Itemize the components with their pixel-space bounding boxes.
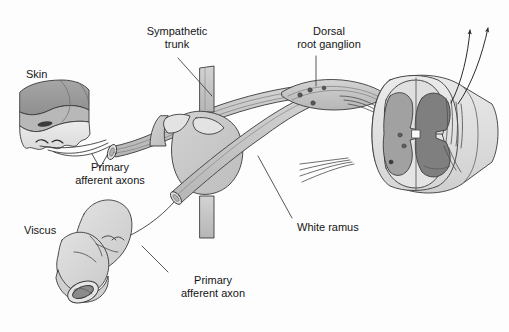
viscus-tube (56, 200, 132, 307)
leader-primary-afferent-axon (142, 246, 168, 272)
label-primary-afferent-axons: Primary afferent axons (60, 161, 160, 187)
label-viscus: Viscus (24, 224, 56, 237)
ventral-root-fibers (300, 158, 354, 182)
anatomical-figure: Skin Sympathetic trunk Dorsal root gangl… (0, 0, 509, 332)
skin-block (20, 80, 90, 149)
spinal-cord (372, 75, 498, 193)
label-primary-afferent-axon: Primary afferent axon (166, 274, 260, 300)
leader-white-ramus (258, 156, 292, 218)
label-sympathetic-trunk: Sympathetic trunk (139, 25, 215, 51)
label-dorsal-root-ganglion: Dorsal root ganglion (289, 25, 369, 51)
label-skin: Skin (26, 68, 47, 81)
label-white-ramus: White ramus (297, 221, 359, 234)
